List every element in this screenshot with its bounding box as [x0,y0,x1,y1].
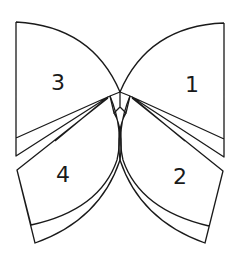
butterfly-diagram: 3 1 4 2 [0,0,238,259]
piece-3 [16,22,120,156]
piece-label-1: 1 [185,72,199,97]
piece-1 [120,23,224,157]
piece-2 [119,96,223,243]
piece-label-2: 2 [173,164,187,189]
piece-label-3: 3 [51,70,65,95]
piece-label-4: 4 [56,162,70,187]
